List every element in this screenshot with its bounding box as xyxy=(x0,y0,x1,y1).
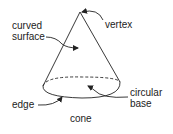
cone-left-side xyxy=(43,12,80,86)
label-curved-surface-1: curved xyxy=(12,20,42,31)
edge-arrow xyxy=(38,97,62,105)
label-vertex: vertex xyxy=(105,19,132,30)
vertex-arrow xyxy=(82,11,103,20)
circular-base-arrow xyxy=(88,86,128,97)
label-circular-base-1: circular xyxy=(130,87,162,98)
base-front-solid xyxy=(43,82,120,98)
diagram-title: cone xyxy=(70,113,92,124)
base-back-dashed xyxy=(43,77,120,86)
label-circular-base-2: base xyxy=(130,98,152,109)
label-edge: edge xyxy=(12,99,34,110)
curved-surface-arrow xyxy=(46,37,78,48)
label-curved-surface-2: surface xyxy=(12,31,45,42)
